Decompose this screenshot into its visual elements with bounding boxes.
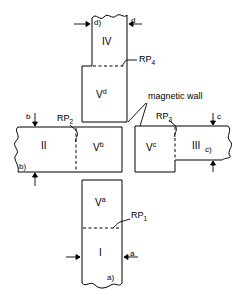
- reference-point-label-rp4: RP4: [139, 55, 155, 66]
- dimension-b-bottom-arrow: [33, 173, 38, 186]
- region-label-ii: II: [41, 141, 47, 151]
- rp4-leader-line: [122, 60, 137, 66]
- dimension-label-d: d: [131, 17, 135, 25]
- dimension-label-a-paren: a): [107, 274, 114, 282]
- region-label-iii: III: [192, 141, 200, 151]
- dimension-d-left-arrow: [74, 22, 90, 27]
- region-label-i: I: [99, 248, 102, 258]
- break-line-bottom: [82, 283, 122, 288]
- volume-vd-base: V: [96, 89, 103, 100]
- rp2-sub: 2: [70, 118, 74, 125]
- volume-vb-base: V: [93, 142, 100, 153]
- dimension-label-a: a: [130, 250, 134, 258]
- rp4-sub: 4: [152, 59, 156, 66]
- dimension-label-d-paren: d): [94, 19, 101, 27]
- rp4-base: RP: [139, 54, 152, 64]
- volume-vc-sup: c: [153, 141, 157, 148]
- dimension-label-b: b: [26, 113, 30, 121]
- dimension-label-c-paren: c): [205, 146, 212, 154]
- volume-va-base: V: [95, 197, 102, 208]
- region-iv-outline: [92, 15, 127, 122]
- magnetic-wall-leader-right: [140, 103, 147, 126]
- rp2-base: RP: [57, 113, 70, 123]
- volume-label-vc: Vc: [146, 141, 156, 153]
- magnetic-regions-diagram: IV Vd RP4 II Vb RP2 Vc III RP3 Va I RP1 …: [0, 0, 247, 297]
- dimension-c-bottom-arrow: [211, 161, 216, 172]
- region-label-iv: IV: [102, 37, 111, 47]
- volume-label-vd: Vd: [96, 88, 107, 100]
- volume-va-sup: a: [102, 196, 106, 203]
- reference-point-label-rp3: RP3: [156, 112, 172, 123]
- dimension-a-left-arrow: [66, 255, 80, 260]
- rp3-base: RP: [156, 111, 169, 121]
- dimension-label-b-paren: b): [19, 163, 26, 171]
- magnetic-wall-leader-left: [128, 103, 146, 122]
- magnetic-wall-annotation: magnetic wall: [148, 92, 203, 101]
- volume-label-vb: Vb: [93, 141, 104, 153]
- break-line-right: [222, 126, 232, 160]
- rp1-sub: 1: [144, 215, 148, 222]
- reference-point-label-rp2: RP2: [57, 114, 73, 125]
- reference-point-label-rp1: RP1: [131, 211, 147, 222]
- dimension-b-top-arrow: [33, 113, 38, 126]
- rp1-base: RP: [131, 210, 144, 220]
- volume-label-va: Va: [95, 196, 106, 208]
- left-arm-outline: [18, 127, 122, 172]
- volume-vc-base: V: [146, 142, 153, 153]
- volume-vd-sup: d: [103, 88, 107, 95]
- volume-vb-sup: b: [100, 141, 104, 148]
- dimension-label-c: c: [217, 113, 221, 121]
- rp3-sub: 3: [169, 116, 173, 123]
- break-line-left: [15, 127, 19, 172]
- dimension-c-top-arrow: [211, 113, 216, 125]
